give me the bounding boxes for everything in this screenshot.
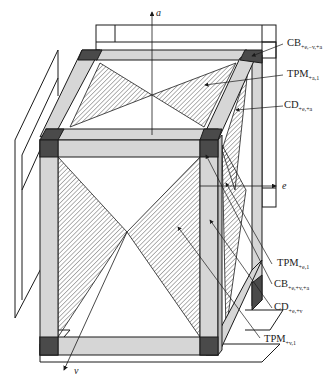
front-top-bar [40, 140, 218, 157]
label-tpm-e: TPM+e,1 [277, 258, 309, 270]
front-left-bar [40, 140, 58, 355]
corner-block-front-top-right-top [200, 129, 222, 140]
front-bottom-bar [40, 337, 218, 355]
e-axis-label: e [282, 181, 286, 191]
front-right-bar [200, 140, 218, 355]
label-cd-ea: CD+e,+a [284, 100, 312, 112]
front-right-bar-side [218, 135, 222, 355]
tpm-v-hatched-right [127, 157, 200, 337]
corner-block-front-bottom-right [200, 337, 218, 355]
right-projection-plane [262, 42, 276, 207]
a-axis-label: a [156, 8, 161, 18]
label-cb-top: CB+e,−v,+a [287, 38, 322, 50]
tpm-v-hatched-left [58, 157, 127, 337]
corner-block-front-top-left [40, 140, 58, 157]
label-tpm-a: TPM+a,1 [287, 69, 319, 81]
label-cd-ev: CD+e,+v [274, 302, 303, 314]
front-top-bar-upper [46, 129, 218, 140]
cube-frame-diagram [0, 0, 330, 382]
label-tpm-v: TPM+v,1 [264, 334, 296, 346]
back-top-bar [96, 50, 247, 60]
label-cb-front: CB+e,+v,+a [274, 279, 309, 291]
v-axis-label: v [74, 366, 78, 376]
corner-block-front-bottom-left [40, 337, 58, 355]
corner-block-front-top-right [200, 140, 218, 157]
